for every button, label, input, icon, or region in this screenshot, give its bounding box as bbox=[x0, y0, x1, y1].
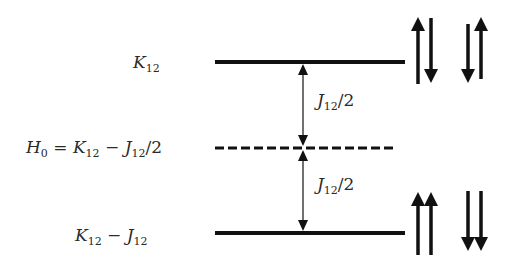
minus-sign: − bbox=[102, 225, 127, 245]
divide-by-two: /2 bbox=[145, 137, 162, 157]
k-symbol: K bbox=[75, 225, 88, 245]
h-symbol: H bbox=[26, 137, 41, 157]
k-subscript: 12 bbox=[86, 147, 100, 160]
lower-level-label: K12 − J12 bbox=[75, 227, 148, 247]
spin-pair-down-up-icon bbox=[461, 17, 488, 83]
divide-by-two: /2 bbox=[338, 174, 355, 194]
spin-pair-up-down-icon bbox=[411, 17, 438, 84]
minus-sign: − bbox=[100, 137, 125, 157]
spin-pair-up-up-icon bbox=[411, 192, 438, 255]
upper-level-label: K12 bbox=[133, 54, 160, 74]
k-symbol: K bbox=[133, 52, 146, 72]
lower-gap-label: J12/2 bbox=[317, 176, 354, 196]
j-subscript: 12 bbox=[134, 235, 148, 248]
upper-gap-label: J12/2 bbox=[317, 92, 354, 112]
equals-sign: = bbox=[48, 137, 73, 157]
j-subscript: 12 bbox=[324, 184, 338, 197]
j-subscript: 12 bbox=[131, 147, 145, 160]
j-symbol: J bbox=[127, 225, 134, 245]
divide-by-two: /2 bbox=[338, 90, 355, 110]
j-subscript: 12 bbox=[324, 100, 338, 113]
k-subscript: 12 bbox=[146, 62, 160, 75]
j-symbol: J bbox=[317, 174, 324, 194]
lower-gap-arrow bbox=[298, 150, 308, 231]
upper-gap-arrow bbox=[298, 64, 308, 146]
k-symbol: K bbox=[73, 137, 86, 157]
k-subscript: 12 bbox=[88, 235, 102, 248]
spin-pair-down-down-icon bbox=[461, 191, 488, 251]
middle-level-label: H0 = K12 − J12/2 bbox=[26, 139, 162, 159]
h-subscript: 0 bbox=[41, 147, 48, 160]
j-symbol: J bbox=[317, 90, 324, 110]
